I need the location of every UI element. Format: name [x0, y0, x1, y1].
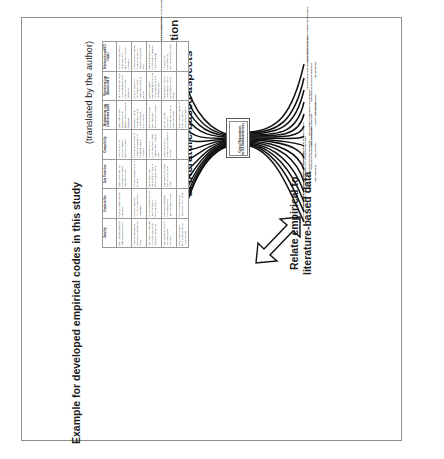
table-cell: Information is presented in a structured… [147, 218, 162, 247]
table-figure-title: Example for developed empirical codes in… [70, 182, 82, 444]
page-frame: (translated by the author) Example of a … [21, 17, 402, 441]
table-cell: Citizens have to be informed about their… [132, 71, 147, 100]
table-cell: Easy interface access to understand all … [117, 218, 132, 247]
table-cell: Interoperability of services between dif… [117, 130, 132, 159]
table-column-header: Neighbouring Law Enforcement and IT [103, 101, 117, 130]
table-cell: ICT as applied part to a structured publ… [117, 42, 132, 71]
relate-connector-label: Relate empirical to literature-based dat… [288, 172, 314, 275]
translated-by-author-note: (translated by the author) [84, 41, 94, 144]
table-column-header: Compatibility [103, 130, 117, 159]
table-cell: Easy access to support, help and contact… [162, 218, 177, 247]
table-row: A well structured and searchable navigat… [132, 42, 147, 248]
mind-map-center-node: Central Requirements for ICT-Mediated Se… [226, 118, 250, 158]
relate-connector: Relate empirical to literature-based dat… [244, 211, 306, 277]
table-cell: Compatible with existing hardware and di… [132, 130, 147, 159]
empirical-codes-table: Usability Simple to Use Data Protection … [102, 41, 189, 248]
table-row: Easy access to support, help and contact… [162, 42, 177, 248]
table-header-row: Usability Simple to Use Data Protection … [103, 42, 117, 248]
table-cell: Impact on the organisation of administra… [162, 42, 177, 71]
table-cell: Data is kept safe, not collected beyond … [117, 159, 132, 188]
table-column-header: Data Protection [103, 159, 117, 188]
table-cell: Administrative law has to be applied equ… [117, 71, 132, 100]
table-cell: A well structured and searchable navigat… [132, 218, 147, 247]
table-cell: Legislation has to provide flexibility f… [132, 101, 147, 130]
table-cell [177, 159, 189, 188]
table-cell: Usability requires a minimum of technica… [132, 189, 147, 218]
table-row: Information is presented in a structured… [147, 42, 162, 248]
table-row: Clear and consistent terminology across … [177, 42, 189, 248]
table-cell [177, 130, 189, 159]
table-cell: Enforcement should keep pace with techno… [147, 101, 162, 130]
table-cell: Digital services mediate an efficiency g… [132, 42, 147, 71]
table-cell: Easy to handle and use effortless [117, 189, 132, 218]
table-cell: Effects of digital services on the relat… [147, 42, 162, 71]
table-row: Easy interface access to understand all … [117, 42, 132, 248]
table-column-header: Simple to Use [103, 189, 117, 218]
table-cell: Services can be combined and re-used bet… [147, 130, 162, 159]
scanned-figure-page: (translated by the author) Example of a … [0, 0, 444, 459]
table-cell: Balance between automated decisions and … [147, 71, 162, 100]
table-cell [177, 42, 189, 71]
table-cell: Monitoring and supervision competences m… [162, 101, 177, 130]
table-cell: Data protection law as an enabling, not … [177, 101, 189, 130]
table-cell: Laws must be kept adjustable to the deve… [117, 101, 132, 130]
table-column-header: Maintaining Law Balance and IT [103, 71, 117, 100]
table-cell: Barrier-free design for users with impai… [177, 189, 189, 218]
table-container: Usability Simple to Use Data Protection … [102, 248, 138, 249]
table-column-header: Relationship and ICT-Impact [103, 42, 117, 71]
table-cell: Identification and authentication must b… [147, 159, 162, 188]
table-cell: Data once given is reusable across diffe… [162, 130, 177, 159]
table-cell: Data sovereignty stays with the citizen … [162, 159, 177, 188]
table-cell: Clear and consistent terminology across … [177, 218, 189, 247]
center-node-label: Central Requirements for ICT-Mediated Se… [239, 121, 246, 157]
table-column-header: Usability [103, 218, 117, 247]
table-cell: Transfer of data only with consent [132, 159, 147, 188]
table-cell [177, 71, 189, 100]
table-cell: Few steps needed to complete a given adm… [162, 189, 177, 218]
table-cell: Simple language without administrative o… [147, 189, 162, 218]
table-cell: Equal access must be preserved for citiz… [162, 71, 177, 100]
